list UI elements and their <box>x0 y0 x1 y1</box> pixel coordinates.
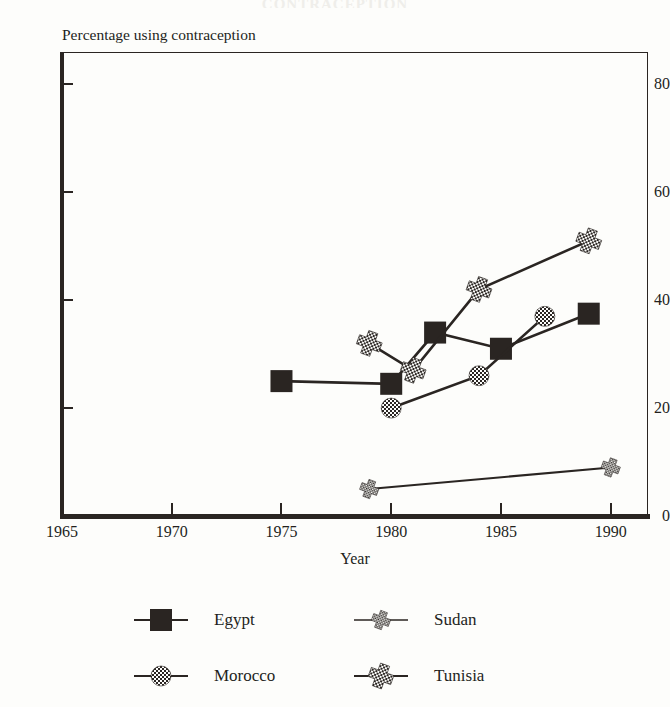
legend-marker-small-star-icon <box>352 606 410 634</box>
x-axis-line <box>60 514 650 519</box>
x-tick-label: 1980 <box>375 523 407 541</box>
y-tick-label: 20 <box>626 399 670 417</box>
y-tick-label: 0 <box>626 507 670 525</box>
legend-item-tunisia[interactable]: Tunisia <box>352 656 484 696</box>
data-point-marker <box>369 608 392 631</box>
x-tick-label: 1975 <box>265 523 297 541</box>
x-axis-title: Year <box>62 550 648 568</box>
x-tick-mark <box>280 503 282 515</box>
chart-figure: CONTRACEPTION Percentage using contracep… <box>0 0 670 707</box>
legend-label: Tunisia <box>434 666 484 686</box>
x-tick-mark <box>171 503 173 515</box>
y-tick-label: 80 <box>626 75 670 93</box>
legend-item-sudan[interactable]: Sudan <box>352 600 477 640</box>
y-tick-label: 60 <box>626 183 670 201</box>
legend-row: MoroccoTunisia <box>132 656 632 696</box>
y-tick-mark <box>62 407 73 409</box>
legend-label: Sudan <box>434 610 477 630</box>
x-tick-mark <box>390 503 392 515</box>
y-tick-mark <box>62 299 73 301</box>
x-tick-label: 1965 <box>46 523 78 541</box>
x-tick-label: 1985 <box>485 523 517 541</box>
legend-row: EgyptSudan <box>132 600 632 640</box>
legend-label: Morocco <box>214 666 275 686</box>
y-tick-mark <box>62 83 73 85</box>
cut-off-title: CONTRACEPTION <box>0 0 670 8</box>
data-point-marker <box>366 662 397 690</box>
legend-marker-checkered-circle-icon <box>132 662 190 690</box>
plot-frame <box>62 52 648 517</box>
chart-legend: EgyptSudanMoroccoTunisia <box>132 600 632 692</box>
y-axis-caption: Percentage using contraception <box>62 26 256 44</box>
legend-item-egypt[interactable]: Egypt <box>132 600 255 640</box>
legend-label: Egypt <box>214 610 255 630</box>
y-tick-label: 40 <box>626 291 670 309</box>
y-tick-mark <box>62 191 73 193</box>
x-tick-label: 1990 <box>595 523 627 541</box>
data-point-marker <box>151 666 171 686</box>
legend-marker-checkered-star-icon <box>352 662 410 690</box>
y-axis-line <box>60 52 64 518</box>
data-point-marker <box>150 609 172 631</box>
x-tick-label: 1970 <box>156 523 188 541</box>
legend-marker-filled-square-icon <box>132 606 190 634</box>
x-tick-mark <box>610 503 612 515</box>
x-tick-mark <box>500 503 502 515</box>
legend-item-morocco[interactable]: Morocco <box>132 656 275 696</box>
